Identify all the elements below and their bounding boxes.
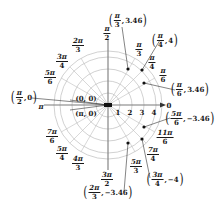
- angle-label-pi-over-6: π6: [159, 67, 166, 83]
- angle-label-7pi-over-4: 7π4: [147, 146, 159, 162]
- angle-pi-label: π: [38, 103, 43, 110]
- origin-label-pi-zero: (π, 0): [75, 110, 97, 117]
- angle-label-5pi-over-6: 5π6: [44, 69, 56, 85]
- angle-label-3pi-over-4: 3π4: [56, 53, 68, 69]
- polar-axis-arrow-icon: [160, 103, 166, 108]
- angle-zero-label: 0: [167, 102, 172, 109]
- angle-label-2pi-over-3: 2π3: [72, 37, 84, 53]
- point-label-pi2-0: (π2,0): [10, 89, 38, 105]
- polar-diagram: 0 π 1 2 3 4 π2 2π3 3π4 5π6 π3 π4 π6 7π6 …: [0, 0, 224, 212]
- radial-tick-1: 1: [116, 109, 121, 116]
- point-label-2pi3-neg346: (2π3,−3.46): [82, 184, 133, 200]
- angle-label-pi-over-4: π4: [148, 54, 155, 70]
- radial-tick-4: 4: [152, 109, 157, 116]
- origin-label-zero-zero: (0, 0): [75, 95, 96, 102]
- radial-tick-2: 2: [128, 109, 133, 116]
- point-label-5pi6-neg346: (5π6,−3.46): [164, 110, 215, 126]
- plotted-points: [104, 67, 146, 144]
- angle-label-4pi-over-3: 4π3: [72, 155, 84, 171]
- angle-label-11pi-over-6: 11π6: [157, 129, 174, 145]
- angle-label-5pi-over-3: 5π3: [130, 158, 142, 174]
- point-label-3pi4-neg4: (3π4,−4): [146, 171, 185, 187]
- angle-label-pi-over-3: π3: [135, 41, 142, 57]
- angle-label-5pi-over-4: 5π4: [56, 145, 68, 161]
- radial-tick-3: 3: [140, 109, 145, 116]
- point-label-pi3-346: (π3,3.46): [108, 12, 148, 28]
- point-label-pi4-4: (π4,4): [151, 32, 179, 48]
- angle-label-7pi-over-6: 7π6: [46, 128, 58, 144]
- point-label-pi6-346: (π6,3.46): [170, 81, 210, 97]
